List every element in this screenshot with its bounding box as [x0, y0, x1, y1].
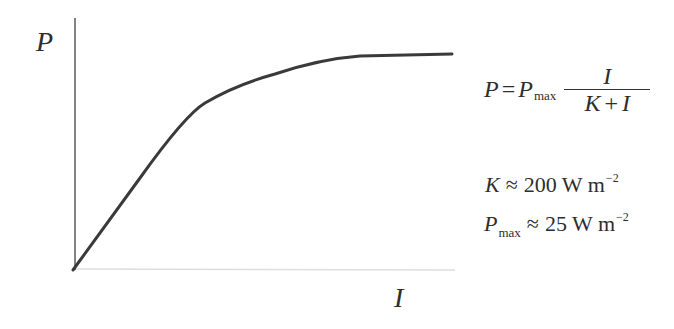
- saturation-curve: [73, 54, 452, 270]
- pmax-value: 25 W m: [545, 211, 615, 236]
- chart-plot: [0, 0, 674, 329]
- den-plus: +: [605, 90, 619, 116]
- formula-lhs: P: [484, 76, 499, 103]
- formula-numerator: I: [601, 64, 613, 88]
- k-value: 200 W m: [524, 172, 605, 197]
- pmax-parameter: Pmax≈25 W m−2: [484, 211, 629, 237]
- y-axis-label: P: [36, 26, 53, 58]
- pmax-approx: ≈: [527, 211, 539, 236]
- k-symbol: K: [485, 172, 500, 197]
- den-k: K: [585, 90, 601, 116]
- x-axis-label: I: [394, 282, 403, 314]
- pmax-subscript: max: [498, 225, 520, 240]
- formula-fraction: I K+I: [564, 64, 650, 115]
- k-approx: ≈: [506, 172, 518, 197]
- formula-pmax-subscript: max: [534, 88, 556, 104]
- den-i: I: [622, 90, 630, 116]
- k-parameter: K≈200 W m−2: [485, 172, 619, 198]
- formula-denominator: K+I: [585, 91, 631, 115]
- pmax-exponent: −2: [616, 210, 629, 224]
- pmax-symbol: P: [484, 211, 497, 236]
- formula-pmax: P: [518, 76, 533, 103]
- michaelis-menten-formula: P = Pmax I K+I: [484, 64, 650, 115]
- formula-equals: =: [502, 76, 516, 103]
- x-axis: [76, 269, 455, 270]
- k-exponent: −2: [606, 171, 619, 185]
